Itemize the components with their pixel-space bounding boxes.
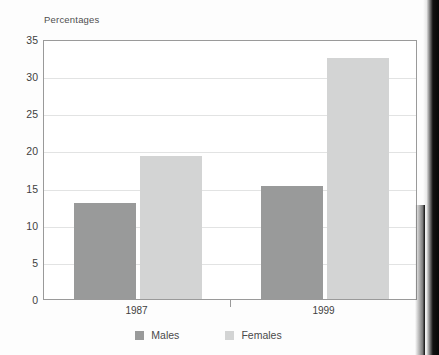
bar-females-1999 [327, 58, 389, 299]
legend-swatch-icon [225, 331, 234, 340]
page-scan-edge [423, 0, 439, 355]
chart-page: Percentages 05101520253035 19871999 Male… [0, 0, 439, 355]
legend-swatch-icon [135, 331, 144, 340]
chart-title: Percentages [44, 14, 100, 25]
y-axis-tick-label: 25 [2, 108, 38, 120]
bar-males-1987 [74, 203, 136, 299]
y-axis-tick-label: 30 [2, 71, 38, 83]
y-axis-tick-label: 5 [2, 257, 38, 269]
x-axis-tick-label: 1987 [125, 305, 147, 316]
y-axis-tick-label: 35 [2, 34, 38, 46]
plot-area [43, 40, 417, 300]
x-axis-center-tick [230, 300, 231, 307]
y-axis-tick-label: 0 [2, 294, 38, 306]
legend-item-females: Females [225, 329, 281, 341]
y-axis-tick-label: 20 [2, 145, 38, 157]
legend-item-males: Males [135, 329, 179, 341]
y-axis-tick-label: 15 [2, 183, 38, 195]
x-axis: 19871999 [43, 300, 417, 320]
legend-label: Males [151, 329, 179, 341]
x-axis-tick-label: 1999 [312, 305, 334, 316]
bar-females-1987 [140, 156, 202, 299]
y-axis-tick-label: 10 [2, 220, 38, 232]
bar-males-1999 [261, 186, 323, 299]
y-axis: 05101520253035 [0, 40, 38, 300]
legend-label: Females [241, 329, 281, 341]
chart-legend: MalesFemales [0, 329, 417, 341]
